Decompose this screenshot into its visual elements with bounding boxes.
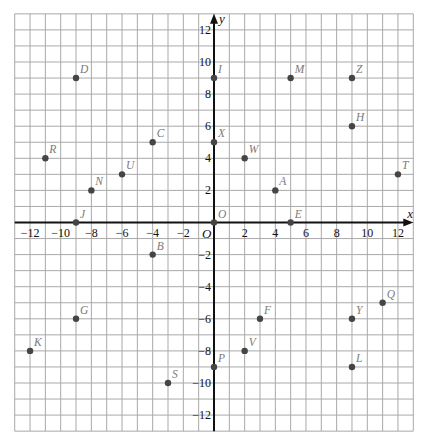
point-label: F: [263, 304, 272, 316]
point-label: T: [402, 159, 410, 171]
point-label: A: [278, 175, 287, 187]
y-tick-label: 4: [205, 151, 211, 165]
x-tick-label: 4: [272, 226, 278, 240]
x-tick-label: 8: [334, 226, 340, 240]
point-label: H: [355, 111, 365, 123]
point-label: U: [126, 159, 135, 171]
y-tick-label: 12: [199, 23, 211, 37]
x-tick-label: 12: [392, 226, 404, 240]
y-tick-label: 2: [205, 183, 211, 197]
x-tick-label: 10: [361, 226, 373, 240]
point-dot-icon: [165, 380, 171, 386]
point-dot-icon: [349, 123, 355, 129]
point-label: M: [294, 63, 306, 75]
point-dot-icon: [241, 155, 247, 161]
y-tick-label: −10: [192, 376, 211, 390]
y-axis-arrow-icon: [210, 14, 218, 24]
point-label: X: [217, 127, 226, 139]
y-tick-label: −2: [198, 248, 211, 262]
point-label: Y: [356, 304, 364, 316]
point-dot-icon: [73, 75, 79, 81]
point-label: I: [217, 63, 223, 75]
point-dot-icon: [149, 251, 155, 257]
point-label: G: [80, 304, 89, 316]
point-dot-icon: [287, 219, 293, 225]
x-tick-label: −4: [146, 226, 159, 240]
y-tick-label: −6: [198, 312, 211, 326]
y-tick-label: −12: [192, 408, 211, 422]
coordinate-plane: x y O −12−10−8−6−4−22468101212108642−2−4…: [0, 0, 425, 442]
point-label: V: [249, 336, 258, 348]
x-tick-label: 2: [242, 226, 248, 240]
x-tick-label: −8: [85, 226, 98, 240]
point-dot-icon: [211, 364, 217, 370]
point-label: Z: [356, 63, 363, 75]
x-tick-label: −10: [51, 226, 70, 240]
y-tick-label: 6: [205, 119, 211, 133]
point-dot-icon: [287, 75, 293, 81]
y-axis-label: y: [217, 11, 225, 26]
point-dot-icon: [379, 300, 385, 306]
x-tick-label: −12: [21, 226, 40, 240]
point-dot-icon: [241, 348, 247, 354]
point-dot-icon: [73, 316, 79, 322]
point-dot-icon: [211, 75, 217, 81]
point-dot-icon: [27, 348, 33, 354]
point-label: K: [33, 336, 43, 348]
point-dot-icon: [349, 316, 355, 322]
point-label: J: [80, 208, 86, 220]
point-dot-icon: [149, 139, 155, 145]
point-label: N: [94, 175, 104, 187]
point-dot-icon: [73, 219, 79, 225]
point-dot-icon: [349, 364, 355, 370]
point-label: O: [218, 208, 227, 220]
point-label: L: [355, 352, 362, 364]
point-label: C: [157, 127, 165, 139]
x-axis-label: x: [406, 206, 413, 221]
point-dot-icon: [211, 219, 217, 225]
point-label: E: [294, 208, 302, 220]
y-tick-label: 8: [205, 87, 211, 101]
point-dot-icon: [211, 139, 217, 145]
point-dot-icon: [395, 171, 401, 177]
point-dot-icon: [257, 316, 263, 322]
origin-tick-label: O: [202, 226, 212, 241]
point-dot-icon: [119, 171, 125, 177]
x-tick-label: −2: [177, 226, 190, 240]
point-dot-icon: [272, 187, 278, 193]
y-tick-label: −8: [198, 344, 211, 358]
x-tick-label: −6: [116, 226, 129, 240]
point-label: Q: [387, 288, 396, 300]
point-label: B: [157, 240, 164, 252]
point-label: D: [79, 63, 89, 75]
y-tick-label: −4: [198, 280, 211, 294]
point-dot-icon: [42, 155, 48, 161]
point-dot-icon: [349, 75, 355, 81]
point-label: S: [172, 368, 178, 380]
point-dot-icon: [88, 187, 94, 193]
point-label: W: [249, 143, 260, 155]
point-label: P: [217, 352, 225, 364]
x-tick-label: 6: [303, 226, 309, 240]
point-label: R: [48, 143, 56, 155]
y-tick-label: 10: [199, 55, 211, 69]
